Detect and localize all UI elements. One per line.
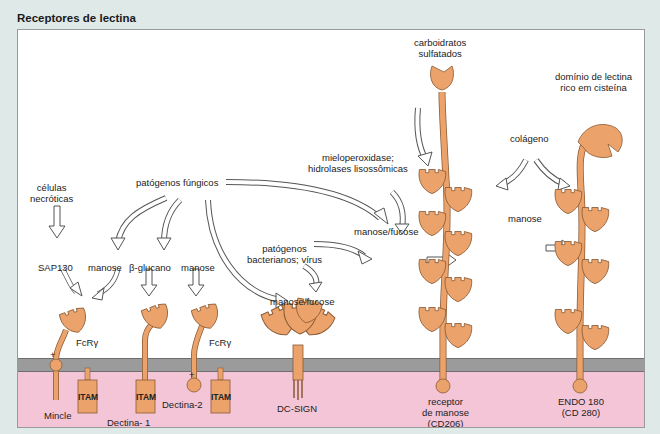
lectin-receptor-diagram	[18, 30, 645, 428]
itam-label-3: ITAM	[211, 392, 231, 402]
fcr-gamma-1	[78, 368, 97, 413]
label-mannose-fucose-1: manose/fucose	[270, 296, 334, 307]
arrow-necrotic-to-sap130	[49, 206, 65, 238]
label-mincle: Mincle	[44, 410, 71, 421]
label-fcr-gamma-1: FcRγ	[76, 337, 98, 348]
endo180-receptor	[555, 124, 622, 393]
label-endo180: ENDO 180 (CD 280)	[558, 396, 604, 418]
label-sap130: SAP130	[38, 262, 73, 273]
label-bacterial-viral: patógenos bacterianos; vírus	[247, 243, 322, 265]
label-dcsign: DC-SIGN	[277, 403, 317, 414]
label-myeloperoxidase: mieloperoxidase; hidrolases lisossômicas	[308, 152, 408, 174]
label-fcr-gamma-2: FcRγ	[209, 337, 231, 348]
label-sulfated-carbohydrates: carboidratos sulfatados	[414, 37, 466, 59]
label-collagen: colágeno	[510, 133, 549, 144]
label-cysteine-rich-domain: domínio de lectina rico em cisteína	[555, 71, 632, 93]
label-necrotic-cells: células necróticas	[30, 182, 73, 204]
label-fungal-pathogens: patógenos fúngicos	[136, 177, 218, 188]
fcr-gamma-2	[211, 368, 230, 413]
label-dectin1: Dectina- 1	[107, 417, 150, 428]
label-mannose-2: manose	[181, 262, 215, 273]
mannose-receptor-cd206	[419, 66, 472, 393]
itam-label-1: ITAM	[78, 392, 98, 402]
plus-sign-dectin2: +	[189, 369, 195, 380]
label-mannose-3: manose	[508, 213, 542, 224]
label-dectin2: Dectina-2	[162, 399, 203, 410]
plus-sign-mincle: +	[50, 349, 56, 360]
figure-title: Receptores de lectina	[17, 12, 136, 24]
label-mannose-receptor: receptor de manose (CD206)	[422, 396, 469, 428]
label-mannose-fucose-2: manose/fucose	[354, 226, 418, 237]
itam-label-2: ITAM	[136, 392, 156, 402]
label-beta-glucan: β-glucano	[129, 262, 171, 273]
diagram-panel: células necróticas patógenos fúngicos SA…	[17, 29, 645, 428]
label-mannose-1: manose	[88, 262, 122, 273]
ligand-arrows	[49, 108, 573, 308]
dcsign-receptor	[261, 298, 336, 400]
